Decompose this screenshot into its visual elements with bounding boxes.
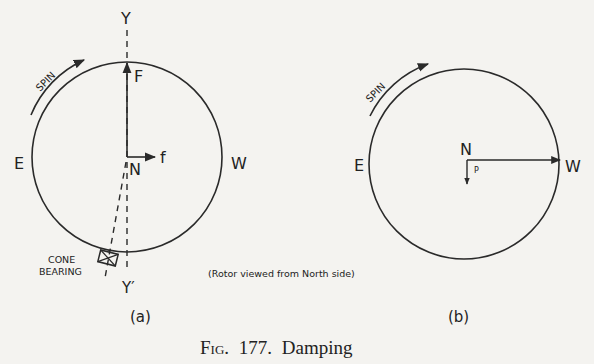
panel-b-label: (b) [448,308,469,326]
caption-number: 177. [239,337,272,358]
caption-prefix: Fig. [200,337,229,358]
cone-bearing-dashed [105,162,126,278]
panel-a-label: (a) [130,308,151,326]
caption-title: Damping [282,337,353,358]
east-label-b: E [354,156,364,175]
west-label-a: W [231,154,247,173]
east-label-a: E [14,154,24,173]
small-f-label: f [160,148,166,167]
panel-b: SPIN N P E W (b) [354,64,581,326]
axis-y-label: Y [120,9,131,28]
damping-diagram: SPIN Y F f N E W CONE BEARING Y′ (a) (Ro… [0,0,594,364]
spin-label-b: SPIN [364,81,388,105]
axis-y-prime-label: Y′ [121,279,135,297]
rotor-view-note: (Rotor viewed from North side) [208,268,355,279]
svg-text:Fig. 177. Damping: Fig. 177. Damping [200,337,353,358]
west-label-b: W [565,157,581,176]
cone-label: CONE [48,254,75,265]
bearing-label: BEARING [39,266,82,277]
p-label: P [474,166,479,175]
cone-bearing-icon [98,250,118,266]
center-N-label-b: N [460,140,472,159]
center-N-label-a: N [129,160,141,179]
rotor-circle-b [369,69,559,259]
force-F-label: F [134,67,143,86]
figure-caption: Fig. 177. Damping [200,337,353,358]
